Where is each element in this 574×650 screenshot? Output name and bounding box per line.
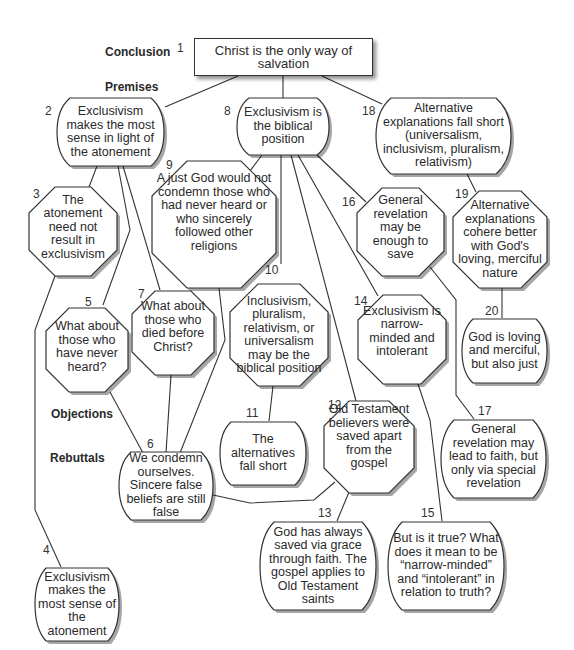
edge-7-6 [166,375,171,453]
node-13-text: God has always saved via grace through f… [259,526,377,607]
node-7-text: What about those who died before Christ? [131,300,215,354]
node-17-text: General revelation may lead to faith, bu… [440,423,547,491]
node-2-text: Exclusivism makes the most sense in ligh… [56,105,165,159]
node-number-6: 6 [147,437,154,451]
node-6-rebuttal: We condemn ourselves. Sincere false beli… [118,451,214,521]
edge-1-18 [322,76,382,104]
edge-5-6 [110,392,143,453]
node-number-1: 1 [177,41,184,55]
node-8-premise: Exclusivism is the biblical position [236,97,330,156]
node-9-objection: A just God would not condemn those who h… [151,160,277,289]
node-5-objection: What about those who have never heard? [45,307,129,393]
node-number-4: 4 [43,543,50,557]
node-14-text: Exclusivism is narrow-minded and intoler… [357,305,447,359]
node-9-text: A just God would not condemn those who h… [151,172,277,253]
node-16-objection: General revelation may be enough to save [356,187,445,277]
node-14-objection: Exclusivism is narrow-minded and intoler… [357,294,447,385]
edge-12-13 [337,492,349,521]
node-number-11: 11 [246,406,258,420]
node-12-text: Old Testament believers were saved apart… [323,403,415,471]
node-5-text: What about those who have never heard? [45,320,129,374]
node-4-rebuttal: Exclusivism makes the most sense of the … [34,567,120,642]
section-label-objections: Objections [51,407,113,421]
node-number-8: 8 [224,104,231,118]
node-6-text: We condemn ourselves. Sincere false beli… [118,452,214,520]
node-13-rebuttal: God has always saved via grace through f… [259,521,377,611]
node-2-premise: Exclusivism makes the most sense in ligh… [56,97,165,167]
node-number-18: 18 [362,104,375,118]
node-number-13: 13 [318,506,331,520]
node-17-rebuttal: General revelation may lead to faith, bu… [440,419,547,499]
node-4-text: Exclusivism makes the most sense of the … [34,571,120,639]
node-number-17: 17 [478,404,491,418]
section-label-rebuttals: Rebuttals [50,451,105,465]
edge-1-2 [165,76,238,107]
node-12-objection: Old Testament believers were saved apart… [323,400,415,494]
node-18-text: Alternative explanations fall short (uni… [375,102,512,170]
node-number-16: 16 [342,195,355,209]
node-10-objection: Inclusivism, pluralism, relativism, or u… [229,283,329,387]
node-11-rebuttal: The alternatives fall short [219,421,307,486]
edge-14-15 [418,384,442,521]
section-label-premises: Premises [105,80,158,94]
node-8-text: Exclusivism is the biblical position [236,106,330,147]
node-18-premise: Alternative explanations fall short (uni… [375,97,512,175]
node-1-conclusion: Christ is the only way of salvation [194,38,373,76]
node-20-rebuttal: God is loving and merciful, but also jus… [461,318,548,384]
node-number-2: 2 [45,104,52,118]
section-label-conclusion: Conclusion [105,45,170,59]
node-3-text: The atonement need not result in exclusi… [28,194,118,262]
node-number-15: 15 [421,506,434,520]
node-15-rebuttal: But is it true? What does it mean to be … [387,521,505,611]
node-1-text: Christ is the only way of salvation [195,44,372,71]
node-3-objection: The atonement need not result in exclusi… [28,186,118,277]
node-16-text: General revelation may be enough to save [356,194,445,262]
node-15-text: But is it true? What does it mean to be … [387,532,505,600]
node-number-20: 20 [485,304,498,318]
node-20-text: God is loving and merciful, but also jus… [461,331,548,372]
node-10-text: Inclusivism, pluralism, relativism, or u… [229,295,329,376]
argument-map: Conclusion Premises Objections Rebuttals… [0,0,574,650]
edge-10-11 [269,386,273,421]
node-19-text: Alternative explanations cohere better w… [452,199,548,280]
edge-2-3 [89,166,97,187]
node-19-objection: Alternative explanations cohere better w… [452,190,548,289]
node-7-objection: What about those who died before Christ? [131,290,215,376]
node-11-text: The alternatives fall short [219,433,307,474]
